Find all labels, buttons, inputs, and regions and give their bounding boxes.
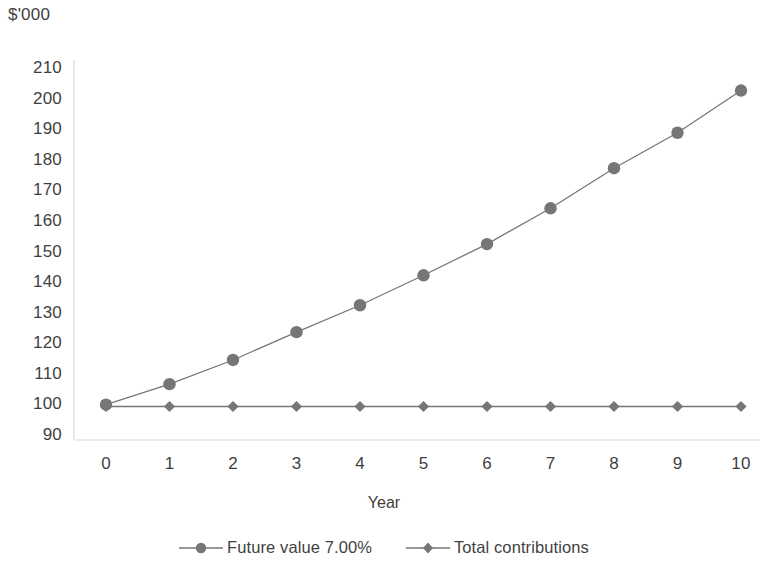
data-point-marker[interactable] xyxy=(481,238,493,250)
plot-area xyxy=(0,0,768,567)
x-axis-tick-label: 10 xyxy=(721,455,761,472)
x-axis-tick-label: 9 xyxy=(658,455,698,472)
data-point-marker[interactable] xyxy=(290,326,302,338)
series-layer xyxy=(100,84,747,412)
y-axis-tick-label: 90 xyxy=(0,426,62,443)
circle-marker-icon xyxy=(179,540,223,556)
series-1 xyxy=(100,84,747,410)
data-point-marker[interactable] xyxy=(545,401,556,412)
x-axis-tick-label: 0 xyxy=(86,455,126,472)
x-axis-tick-label: 3 xyxy=(277,455,317,472)
x-axis-title: Year xyxy=(0,494,768,512)
line-chart: $'000 2102001901801701601501401301201101… xyxy=(0,0,768,567)
x-axis-tick-label: 8 xyxy=(594,455,634,472)
y-axis-tick-label: 130 xyxy=(0,304,62,321)
y-axis-tick-label: 200 xyxy=(0,90,62,107)
data-point-marker[interactable] xyxy=(735,401,746,412)
series-2 xyxy=(100,401,746,412)
data-point-marker[interactable] xyxy=(163,378,175,390)
data-point-marker[interactable] xyxy=(227,354,239,366)
y-axis-tick-label: 140 xyxy=(0,273,62,290)
data-point-marker[interactable] xyxy=(735,84,747,96)
legend-item-future-value[interactable]: Future value 7.00% xyxy=(179,538,372,557)
data-point-marker[interactable] xyxy=(291,401,302,412)
diamond-marker-icon xyxy=(406,540,450,556)
y-axis-tick-label: 190 xyxy=(0,120,62,137)
x-axis-tick-label: 4 xyxy=(340,455,380,472)
series-line xyxy=(106,91,741,405)
data-point-marker[interactable] xyxy=(608,401,619,412)
x-axis-tick-label: 5 xyxy=(404,455,444,472)
data-point-marker[interactable] xyxy=(418,401,429,412)
y-axis-tick-label: 150 xyxy=(0,243,62,260)
data-point-marker[interactable] xyxy=(671,127,683,139)
legend-label-future-value: Future value 7.00% xyxy=(227,538,372,557)
y-axis-tick-label: 170 xyxy=(0,181,62,198)
legend-label-total-contributions: Total contributions xyxy=(454,538,589,557)
y-axis-tick-label: 110 xyxy=(0,365,62,382)
data-point-marker[interactable] xyxy=(481,401,492,412)
x-axis-tick-label: 6 xyxy=(467,455,507,472)
y-axis-tick-label: 160 xyxy=(0,212,62,229)
y-axis-tick-label: 100 xyxy=(0,395,62,412)
x-axis-tick-label: 2 xyxy=(213,455,253,472)
axis-lines xyxy=(74,60,760,440)
data-point-marker[interactable] xyxy=(354,401,365,412)
chart-legend: Future value 7.00% Total contributions xyxy=(0,538,768,557)
data-point-marker[interactable] xyxy=(354,299,366,311)
data-point-marker[interactable] xyxy=(608,162,620,174)
x-axis-tick-label: 7 xyxy=(531,455,571,472)
x-axis-tick-label: 1 xyxy=(150,455,190,472)
y-axis-tick-label: 120 xyxy=(0,334,62,351)
data-point-marker[interactable] xyxy=(417,269,429,281)
y-axis-tick-label: 210 xyxy=(0,59,62,76)
data-point-marker[interactable] xyxy=(164,401,175,412)
y-axis-tick-label: 180 xyxy=(0,151,62,168)
data-point-marker[interactable] xyxy=(544,202,556,214)
legend-item-total-contributions[interactable]: Total contributions xyxy=(406,538,589,557)
data-point-marker[interactable] xyxy=(227,401,238,412)
data-point-marker[interactable] xyxy=(672,401,683,412)
